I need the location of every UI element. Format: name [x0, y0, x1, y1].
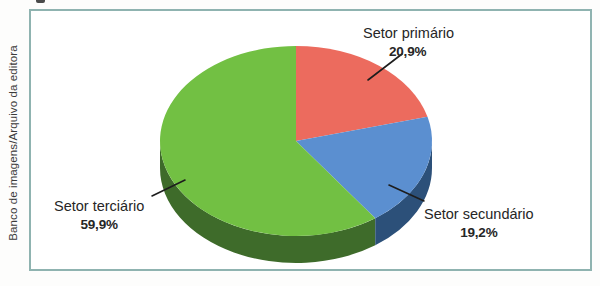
- callout-label-secundario: Setor secundário 19,2%: [424, 205, 534, 242]
- figure-page: Banco de imagens/Arquivo da editora: [0, 0, 600, 286]
- callout-value-secundario: 19,2%: [424, 224, 534, 242]
- callout-name-secundario: Setor secundário: [424, 206, 534, 222]
- callout-name-terciario: Setor terciário: [54, 198, 144, 214]
- callout-label-terciario: Setor terciário 59,9%: [54, 197, 144, 234]
- callout-name-primario: Setor primário: [363, 25, 454, 41]
- callout-value-terciario: 59,9%: [54, 216, 144, 234]
- callout-value-primario: 20,9%: [389, 43, 454, 61]
- callout-label-primario: Setor primário 20,9%: [363, 24, 454, 61]
- cropped-text-mark: [36, 0, 45, 3]
- photo-credit: Banco de imagens/Arquivo da editora: [0, 0, 26, 286]
